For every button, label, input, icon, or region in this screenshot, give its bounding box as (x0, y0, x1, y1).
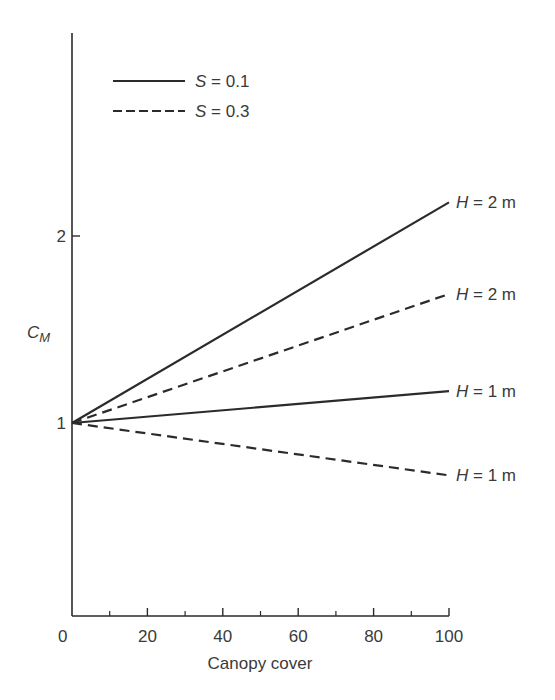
y-tick-label: 2 (57, 227, 66, 246)
series-end-label: H = 2 m (456, 193, 516, 212)
x-tick-label: 100 (435, 627, 463, 646)
x-tick-label: 80 (364, 627, 383, 646)
y-tick-label: 1 (57, 414, 66, 433)
series-line (72, 423, 449, 475)
series-end-label: H = 1 m (456, 466, 516, 485)
series-end-label: H = 2 m (456, 285, 516, 304)
legend-label: S = 0.1 (195, 72, 249, 91)
series-end-label: H = 1 m (456, 382, 516, 401)
plot-lines: H = 2 mH = 2 mH = 1 mH = 1 m (72, 193, 516, 485)
axes: 02040608010012 (57, 33, 464, 646)
chart: 02040608010012 H = 2 mH = 2 mH = 1 mH = … (0, 0, 555, 700)
y-axis-label: CM (27, 323, 50, 345)
x-tick-label: 60 (289, 627, 308, 646)
x-tick-label: 0 (58, 627, 67, 646)
x-tick-label: 40 (213, 627, 232, 646)
legend: S = 0.1S = 0.3 (113, 72, 249, 121)
series-line (72, 391, 449, 423)
legend-label: S = 0.3 (195, 102, 249, 121)
x-axis-label: Canopy cover (208, 654, 313, 673)
x-tick-label: 20 (138, 627, 157, 646)
